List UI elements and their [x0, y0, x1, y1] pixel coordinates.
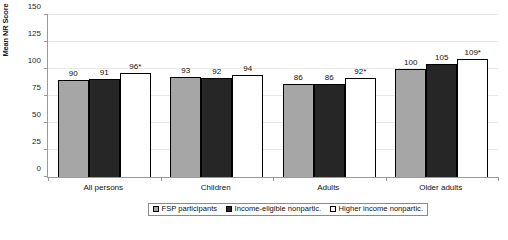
- bar-value-label: 93: [181, 66, 190, 75]
- y-tick-label: 75: [32, 83, 48, 92]
- x-tick-mark: [161, 177, 162, 181]
- legend-item[interactable]: Higher income nonpartic.: [330, 205, 423, 213]
- bar-group: 868692*: [273, 15, 386, 177]
- y-tick-label: 150: [28, 2, 48, 11]
- bar-slot: 92*: [345, 15, 376, 177]
- chart-figure: Mean NR Score 0255075100125150 909196*93…: [0, 0, 508, 240]
- y-tick-label: 0: [37, 164, 48, 173]
- chart-legend: FSP participantsIncome-eligible nonparti…: [148, 203, 428, 216]
- bar-slot: 90: [58, 15, 89, 177]
- bar[interactable]: 93: [170, 77, 201, 177]
- bar[interactable]: 92*: [345, 78, 376, 177]
- bar[interactable]: 96*: [120, 73, 151, 177]
- bar-slot: 109*: [457, 15, 488, 177]
- bar-slot: 105: [426, 15, 457, 177]
- bar-slot: 92: [201, 15, 232, 177]
- bar[interactable]: 86: [314, 84, 345, 177]
- bar-groups: 909196*939294868692*100105109*: [48, 15, 498, 177]
- bar-value-label: 92*: [354, 67, 366, 76]
- bar-slot: 93: [170, 15, 201, 177]
- bar-value-label: 86: [294, 73, 303, 82]
- bar[interactable]: 109*: [457, 59, 488, 177]
- bar-slot: 86: [314, 15, 345, 177]
- bar-value-label: 100: [404, 58, 417, 67]
- bar-slot: 100: [395, 15, 426, 177]
- legend-swatch-icon: [153, 206, 159, 212]
- y-tick-label: 25: [32, 137, 48, 146]
- x-axis-labels: All personsChildrenAdultsOlder adults: [47, 183, 497, 192]
- bar-slot: 94: [232, 15, 263, 177]
- legend-swatch-icon: [226, 206, 232, 212]
- bar[interactable]: 94: [232, 75, 263, 177]
- plot-area: 0255075100125150 909196*939294868692*100…: [47, 15, 498, 178]
- bar-group: 939294: [161, 15, 274, 177]
- bar-value-label: 90: [69, 69, 78, 78]
- legend-item[interactable]: FSP participants: [153, 205, 217, 213]
- legend-item[interactable]: Income-eligible nonpartic.: [226, 205, 321, 213]
- bar[interactable]: 100: [395, 69, 426, 177]
- legend-swatch-icon: [330, 206, 336, 212]
- bar-value-label: 105: [435, 53, 448, 62]
- x-axis-category-label: Older adults: [385, 183, 498, 192]
- bar-value-label: 92: [212, 67, 221, 76]
- bar-slot: 91: [89, 15, 120, 177]
- bar[interactable]: 90: [58, 80, 89, 177]
- bar-value-label: 91: [100, 68, 109, 77]
- y-tick-label: 50: [32, 110, 48, 119]
- bar-value-label: 94: [243, 64, 252, 73]
- bar[interactable]: 92: [201, 78, 232, 177]
- bar[interactable]: 105: [426, 64, 457, 177]
- bar-group: 100105109*: [386, 15, 499, 177]
- bar[interactable]: 86: [283, 84, 314, 177]
- y-tick-label: 125: [28, 29, 48, 38]
- bar-slot: 96*: [120, 15, 151, 177]
- y-axis-label: Mean NR Score: [0, 0, 12, 78]
- x-axis-category-label: Children: [160, 183, 273, 192]
- figure-caption: [2, 231, 302, 240]
- x-axis-category-label: Adults: [272, 183, 385, 192]
- legend-label: Higher income nonpartic.: [339, 205, 423, 213]
- x-tick-mark: [386, 177, 387, 181]
- bar-value-label: 86: [325, 73, 334, 82]
- x-tick-mark: [498, 177, 499, 181]
- legend-label: Income-eligible nonpartic.: [235, 205, 322, 213]
- x-tick-mark: [273, 177, 274, 181]
- bar-slot: 86: [283, 15, 314, 177]
- x-axis-category-label: All persons: [47, 183, 160, 192]
- y-tick-label: 100: [28, 56, 48, 65]
- bar[interactable]: 91: [89, 79, 120, 177]
- bar-value-label: 96*: [129, 62, 141, 71]
- x-tick-mark: [48, 177, 49, 181]
- legend-label: FSP participants: [162, 205, 218, 213]
- bar-value-label: 109*: [465, 48, 481, 57]
- bar-group: 909196*: [48, 15, 161, 177]
